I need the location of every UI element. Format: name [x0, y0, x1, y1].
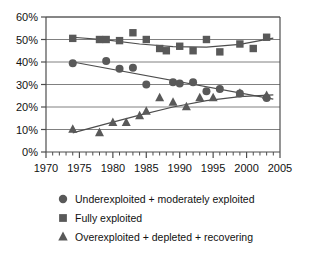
- x-axis-ticks: [46, 152, 280, 158]
- x-axis-label-1975: 1975: [67, 162, 91, 174]
- scatter-chart: 60% 50% 40% 30% 20% 10% 0% 1970 1975 198…: [0, 0, 315, 260]
- data-point-square-1974: [69, 35, 76, 42]
- legend-label-underexploited: Underexploited + moderately exploited: [75, 193, 255, 205]
- data-point-circle-1983: [129, 64, 137, 72]
- y-axis-ticks: [41, 17, 46, 152]
- x-axis-label-1970: 1970: [34, 162, 58, 174]
- x-axis-label-1990: 1990: [167, 162, 191, 174]
- data-point-square-1981: [116, 37, 123, 44]
- legend-marker-circle: [59, 195, 67, 203]
- legend-marker-square: [59, 214, 67, 222]
- data-point-square-2003: [263, 34, 270, 41]
- legend-markers: [58, 195, 67, 241]
- x-axis-label-1980: 1980: [101, 162, 125, 174]
- y-axis-label-40: 40%: [16, 56, 38, 68]
- data-point-circle-1996: [216, 85, 224, 93]
- data-point-square-1978: [96, 36, 103, 43]
- x-axis-labels: 1970 1975 1980 1985 1990 1995 2000 2005: [34, 162, 292, 174]
- y-axis-label-60: 60%: [16, 11, 38, 23]
- x-axis-label-1985: 1985: [134, 162, 158, 174]
- data-point-circle-1979: [102, 57, 110, 65]
- data-point-circle-1992: [189, 78, 197, 86]
- data-point-square-1990: [176, 43, 183, 50]
- data-point-square-1994: [203, 36, 210, 43]
- x-axis-label-1995: 1995: [201, 162, 225, 174]
- data-point-square-1988: [163, 47, 170, 54]
- y-axis-label-20: 20%: [16, 101, 38, 113]
- data-point-square-1999: [236, 40, 243, 47]
- x-axis-label-2005: 2005: [268, 162, 292, 174]
- data-point-circle-1974: [69, 59, 77, 67]
- data-point-square-1996: [216, 48, 223, 55]
- chart-figure: 60% 50% 40% 30% 20% 10% 0% 1970 1975 198…: [0, 0, 315, 260]
- y-axis-labels: 60% 50% 40% 30% 20% 10% 0%: [16, 11, 38, 158]
- data-point-square-1985: [143, 36, 150, 43]
- data-point-circle-1981: [116, 65, 124, 73]
- legend-label-overexploited: Overexploited + depleted + recovering: [75, 231, 253, 243]
- x-axis-label-2000: 2000: [234, 162, 258, 174]
- chart-legend: Underexploited + moderately exploited Fu…: [58, 193, 254, 243]
- y-axis-label-10: 10%: [16, 124, 38, 136]
- y-axis-label-0: 0%: [22, 146, 38, 158]
- data-point-circle-1989: [169, 78, 177, 86]
- data-point-square-1987: [156, 45, 163, 52]
- data-point-circle-1994: [202, 87, 210, 95]
- data-point-circle-1985: [142, 81, 150, 89]
- legend-label-fully-exploited: Fully exploited: [75, 212, 142, 224]
- y-axis-label-50: 50%: [16, 34, 38, 46]
- data-point-square-1979: [102, 36, 109, 43]
- data-point-square-2001: [250, 45, 257, 52]
- legend-marker-triangle: [58, 231, 67, 240]
- data-point-circle-1990: [176, 79, 184, 87]
- data-point-square-1992: [189, 47, 196, 54]
- data-point-square-1983: [129, 29, 136, 36]
- y-axis-label-30: 30%: [16, 79, 38, 91]
